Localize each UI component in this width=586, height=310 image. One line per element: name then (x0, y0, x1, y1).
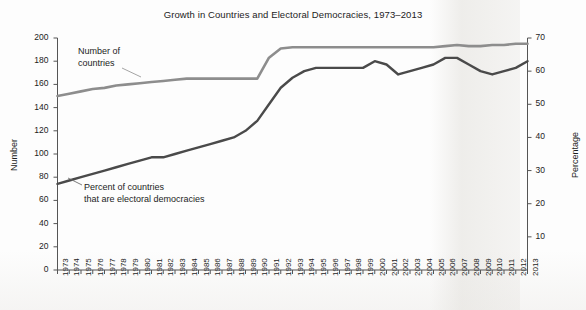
leader-line-number-of-countries (122, 68, 141, 77)
series-lines (58, 44, 528, 184)
series-line-number-of-countries (58, 44, 528, 96)
annotation-percent-democracies: Percent of countries that are electoral … (84, 182, 205, 205)
tick-marks (54, 38, 532, 274)
annotation-number-of-countries: Number of countries (78, 46, 120, 69)
axis-lines (58, 38, 528, 270)
annotation-leader-lines (68, 68, 141, 185)
chart-figure: Growth in Countries and Electoral Democr… (0, 0, 586, 310)
series-line-percent-democracies (58, 58, 528, 184)
